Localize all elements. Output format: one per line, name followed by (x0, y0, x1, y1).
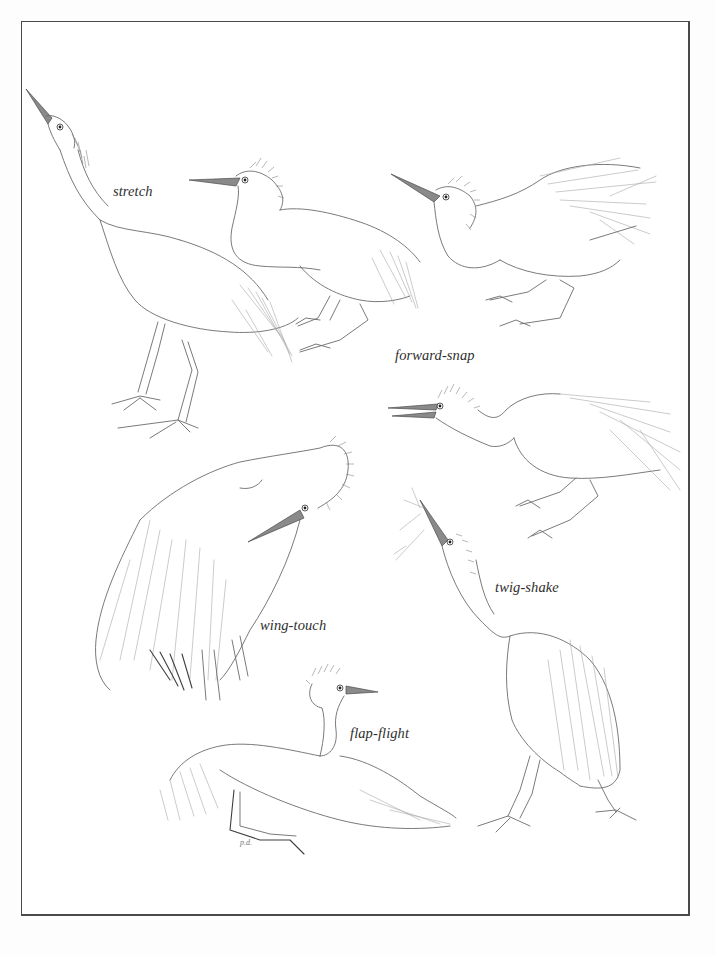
twig-shake-bird-sketch (394, 488, 636, 832)
illustration-page: stretch forward-snap wing-touch twig-sha… (0, 0, 715, 955)
forward-snap-bird-1-sketch (189, 158, 420, 352)
forward-snap-bird-2-sketch (391, 158, 656, 326)
artist-signature: p.d. (240, 838, 252, 847)
label-twig-shake: twig-shake (495, 579, 559, 596)
flap-flight-bird-sketch (160, 664, 456, 854)
label-wing-touch: wing-touch (260, 617, 326, 634)
label-forward-snap: forward-snap (395, 347, 475, 364)
label-flap-flight: flap-flight (350, 725, 409, 742)
forward-snap-bird-3-sketch (388, 384, 680, 538)
stretch-bird-sketch (26, 89, 298, 438)
label-stretch: stretch (113, 183, 153, 200)
heron-behavior-sketches (0, 0, 715, 955)
wing-touch-bird-sketch (96, 436, 354, 700)
